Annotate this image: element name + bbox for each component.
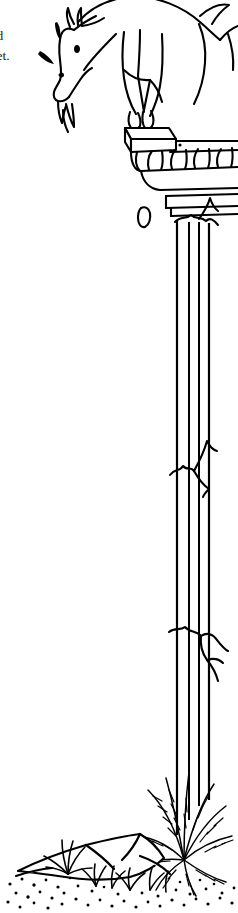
goat-eye [74, 45, 80, 53]
caption-line-1: uld [0, 26, 40, 46]
falling-pebble [138, 207, 150, 227]
column-and-goat-illustration [0, 0, 238, 913]
capital-abacus-face [131, 139, 176, 152]
capital-abacus-top [125, 128, 176, 139]
illustration-page: uld reet. [0, 0, 238, 913]
caption-text: uld reet. [0, 26, 40, 66]
caption-line-2: reet. [0, 46, 40, 66]
capital-dot-ornament [178, 143, 181, 146]
